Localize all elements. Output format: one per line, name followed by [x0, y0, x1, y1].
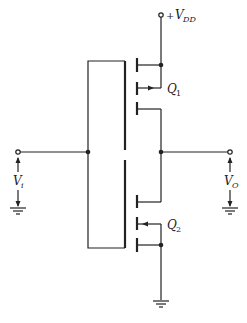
- q1-body-arrow-icon: [148, 86, 154, 91]
- ground-junction-dot: [159, 243, 164, 248]
- input-ground-icon: [10, 208, 26, 214]
- q2-subscript: 2: [176, 225, 181, 234]
- gate-loop: [88, 61, 125, 248]
- input-terminal: [16, 150, 20, 154]
- supply-subscript: DD: [182, 15, 196, 24]
- supply-ground-icon: [153, 301, 169, 307]
- q2-body-arrow-icon: [142, 222, 148, 227]
- supply-sign: +: [166, 10, 174, 21]
- output-ground-icon: [222, 208, 238, 214]
- input-junction-dot: [86, 150, 91, 155]
- vout-arrowhead-up-icon: [228, 157, 233, 163]
- cmos-inverter-schematic: + V DD Q 1 Q 2 V i V O: [0, 0, 247, 323]
- q1-subscript: 1: [176, 89, 181, 98]
- vin-subscript: i: [21, 181, 24, 190]
- vdd-junction-dot: [159, 63, 164, 68]
- vout-subscript: O: [232, 181, 239, 190]
- vin-arrowhead-down-icon: [16, 201, 21, 207]
- vin-arrowhead-up-icon: [16, 157, 21, 163]
- output-terminal: [228, 150, 232, 154]
- vdd-terminal: [159, 13, 163, 17]
- output-junction-dot: [159, 150, 164, 155]
- vout-arrowhead-down-icon: [228, 201, 233, 207]
